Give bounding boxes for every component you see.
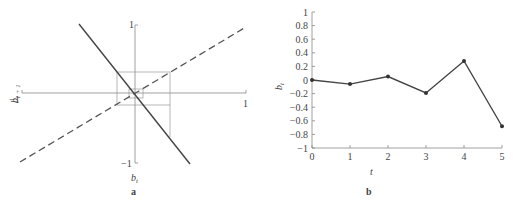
- series-line: [312, 61, 502, 126]
- svg-text:1: 1: [243, 98, 248, 109]
- data-point: [462, 59, 466, 63]
- x-tick-label: 1: [348, 151, 353, 162]
- svg-text:1: 1: [129, 19, 134, 30]
- y-tick-label: −1: [297, 143, 308, 154]
- panel-b: 10.80.60.40.20−0.2−0.4−0.6−0.8−1 012345 …: [273, 7, 505, 198]
- x-tick-label: 2: [386, 151, 391, 162]
- y-tick-label: −0.8: [290, 129, 308, 140]
- y-tick-label: 0.4: [296, 47, 309, 58]
- y-tick-label: 1: [303, 7, 308, 18]
- identity-line: [20, 27, 246, 162]
- figure: 1 −1 −1 1 bt a bt + 1 10.80.60.40.20−0.2…: [0, 0, 516, 203]
- y-tick-label: 0.6: [296, 34, 309, 45]
- y-tick-label: 0.2: [296, 61, 309, 72]
- y-tick-label: −0.2: [290, 88, 308, 99]
- y-tick-label: 0: [303, 75, 308, 86]
- y-tick-label: −0.6: [290, 115, 308, 126]
- figure-svg: 1 −1 −1 1 bt a bt + 1 10.80.60.40.20−0.2…: [0, 0, 516, 203]
- svg-text:bt: bt: [131, 172, 139, 185]
- panel-a: [20, 24, 246, 164]
- svg-text:a: a: [131, 186, 136, 197]
- svg-text:b: b: [366, 186, 372, 197]
- y-tick-label: 0.8: [296, 20, 309, 31]
- data-point: [310, 78, 314, 82]
- x-tick-label: 4: [462, 151, 467, 162]
- svg-text:t: t: [370, 166, 373, 177]
- svg-text:bt: bt: [273, 82, 286, 90]
- svg-text:−1: −1: [121, 158, 132, 169]
- data-point: [424, 91, 428, 95]
- x-tick-label: 3: [424, 151, 429, 162]
- x-tick-label: 0: [310, 151, 315, 162]
- y-tick-label: −0.4: [290, 102, 308, 113]
- data-point: [386, 75, 390, 79]
- data-point: [500, 124, 504, 128]
- map-line: [79, 24, 190, 164]
- x-tick-label: 5: [500, 151, 505, 162]
- panel-a-labels: 1 −1 −1 1 bt a bt + 1: [9, 19, 248, 197]
- data-point: [348, 82, 352, 86]
